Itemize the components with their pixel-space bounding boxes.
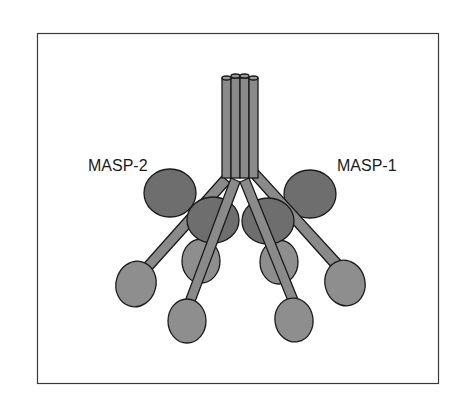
- stem-cap-3: [240, 74, 249, 78]
- stem-cap-2: [231, 74, 240, 78]
- masp2-inner-head: [168, 299, 206, 343]
- masp-diagram: MASP-2 MASP-1: [0, 0, 467, 412]
- stem-tube-4: [249, 78, 258, 178]
- masp2-label: MASP-2: [88, 157, 148, 174]
- stem-cap-1: [222, 76, 231, 80]
- masp2-dark-domain-outer: [144, 169, 196, 217]
- stem-tube-1: [222, 78, 231, 178]
- stem-tube-2: [231, 78, 240, 178]
- stem-cap-4: [249, 76, 258, 80]
- masp1-label: MASP-1: [337, 157, 397, 174]
- stem-tube-3: [240, 78, 249, 178]
